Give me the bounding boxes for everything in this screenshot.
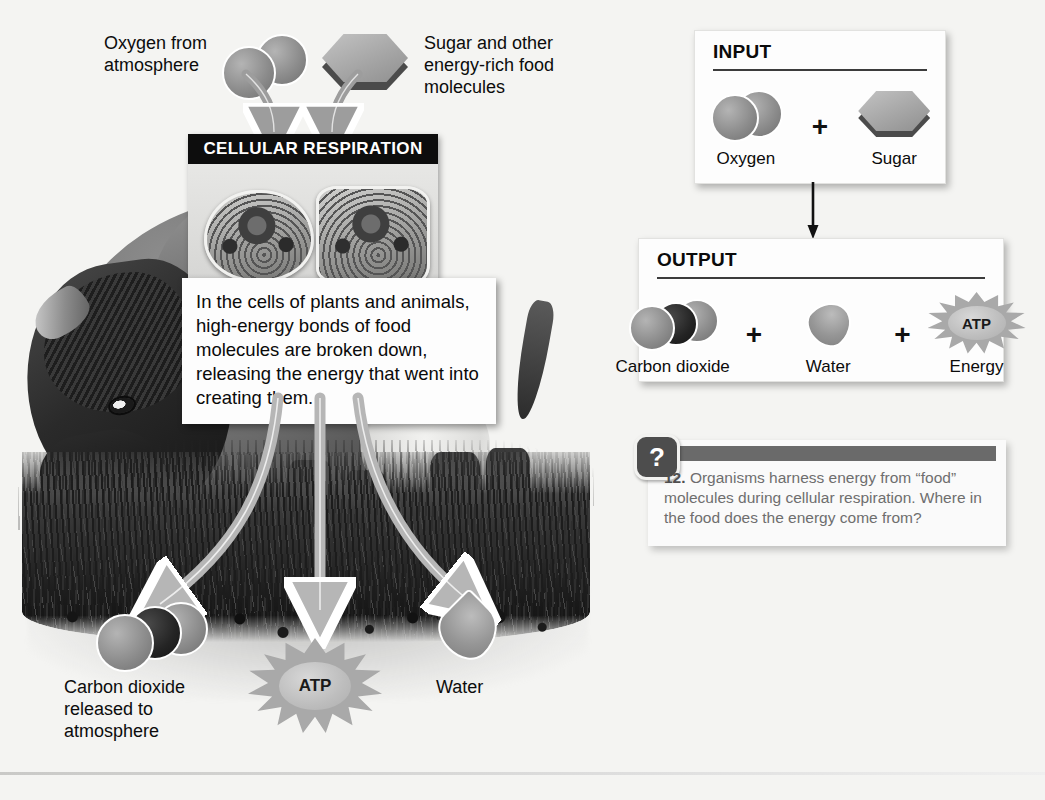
question-text: 12. Organisms harness energy from “food”… xyxy=(664,468,984,528)
review-question-block: ? 12. Organisms harness energy from “foo… xyxy=(634,432,1006,550)
carbon-dioxide-molecule-icon xyxy=(96,600,206,668)
input-item-oxygen: Oxygen xyxy=(696,85,796,169)
carbon-dioxide-outflow-arrow xyxy=(160,398,278,604)
footer-divider xyxy=(0,772,1045,775)
input-item-sugar: Sugar xyxy=(844,85,944,169)
figure-page: Oxygen from atmosphere Sugar and other e… xyxy=(0,0,1045,800)
question-number: 12. xyxy=(664,469,686,486)
water-droplet-icon xyxy=(436,594,498,668)
input-plus-operator: + xyxy=(812,111,828,169)
oxygen-molecule-icon xyxy=(696,85,796,145)
output-label-carbon-dioxide: Carbon dioxide xyxy=(615,357,729,377)
cell-micrograph-illustration xyxy=(188,164,438,292)
output-heading: OUTPUT xyxy=(639,239,1003,277)
question-body: Organisms harness energy from “food” mol… xyxy=(664,469,982,526)
atp-core-label: ATP xyxy=(279,662,351,710)
question-header-bar xyxy=(660,446,996,461)
oxygen-inflow-arrow xyxy=(246,74,274,132)
water-outflow-arrow xyxy=(358,398,468,600)
water-output-label: Water xyxy=(436,676,556,698)
sugar-input-label: Sugar and other energy-rich food molecul… xyxy=(424,32,614,98)
output-items-row: Carbon dioxide + Water + ATP xyxy=(639,279,1003,377)
input-summary-box: INPUT Oxygen + xyxy=(694,30,946,184)
output-label-water: Water xyxy=(806,357,851,377)
output-label-energy: Energy xyxy=(950,357,1004,377)
atp-core-label: ATP xyxy=(948,306,1006,340)
callout-text: In the cells of plants and animals, high… xyxy=(196,290,482,410)
output-item-energy: ATP Energy xyxy=(927,293,1027,377)
input-heading: INPUT xyxy=(695,31,945,69)
plant-cell-illustration xyxy=(316,186,430,284)
output-summary-box: OUTPUT Carbon dioxide + xyxy=(638,238,1004,382)
atp-starburst-icon: ATP xyxy=(927,293,1027,353)
input-to-output-arrow xyxy=(806,182,820,240)
input-label-oxygen: Oxygen xyxy=(717,149,776,169)
carbon-dioxide-molecule-icon xyxy=(623,293,723,353)
output-plus-operator-1: + xyxy=(746,319,762,377)
animal-cell-illustration xyxy=(204,190,314,282)
output-item-water: Water xyxy=(778,293,878,377)
cellular-respiration-title: CELLULAR RESPIRATION xyxy=(188,134,438,164)
water-droplet-icon xyxy=(778,293,878,353)
carbon-dioxide-output-label: Carbon dioxide released to atmosphere xyxy=(64,676,244,742)
input-arrows xyxy=(240,70,380,144)
cellular-respiration-panel: CELLULAR RESPIRATION xyxy=(188,134,438,292)
bison-respiration-scene: Oxygen from atmosphere Sugar and other e… xyxy=(0,0,620,760)
output-plus-operator-2: + xyxy=(894,319,910,377)
output-item-carbon-dioxide: Carbon dioxide xyxy=(615,293,729,377)
atp-starburst-icon: ATP xyxy=(248,638,382,734)
sugar-hexagon-icon xyxy=(844,85,944,145)
sugar-inflow-arrow xyxy=(332,74,358,132)
input-items-row: Oxygen + Sugar xyxy=(695,71,945,169)
input-label-sugar: Sugar xyxy=(871,149,916,169)
